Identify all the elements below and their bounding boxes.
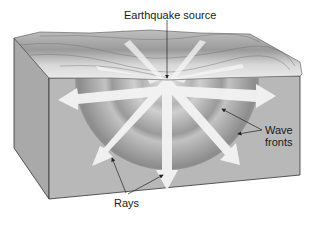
wave-fronts-label: Wave fronts [265, 124, 293, 148]
earthquake-diagram [0, 0, 314, 229]
rays-label: Rays [114, 197, 139, 209]
wave-fronts-label-line2: fronts [265, 136, 293, 148]
earthquake-source-label: Earthquake source [124, 9, 216, 21]
wave-fronts-label-line1: Wave [265, 124, 293, 136]
